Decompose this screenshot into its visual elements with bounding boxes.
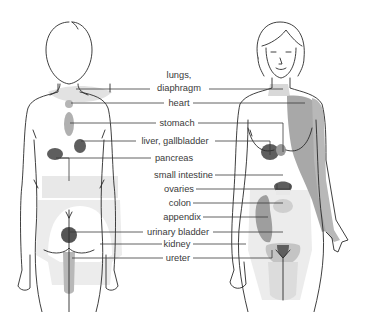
lumbar-zone-back	[42, 176, 118, 198]
front-hair-outline	[257, 22, 304, 76]
label-heart: heart	[168, 98, 190, 108]
heart-zone-back	[65, 100, 73, 108]
front-view-figure	[230, 22, 348, 312]
label-small-intestine: small intestine	[154, 170, 213, 180]
organ-labels: lungs, diaphragm heart stomach liver, ga…	[141, 70, 213, 263]
label-ureter: ureter	[166, 253, 190, 263]
label-stomach: stomach	[159, 118, 194, 128]
label-kidney: kidney	[164, 239, 191, 249]
label-urinary-bladder: urinary bladder	[147, 227, 209, 237]
front-face-features	[271, 52, 291, 70]
colon-zone-light	[273, 199, 293, 213]
label-diaphragm: diaphragm	[157, 83, 201, 93]
ovaries-zone-front	[276, 190, 290, 195]
stomach-zone-front	[276, 144, 286, 156]
stomach-zone-back	[64, 112, 74, 136]
back-view-figure	[18, 22, 122, 312]
label-pancreas: pancreas	[155, 153, 194, 163]
label-liver-gallbladder: liver, gallbladder	[141, 136, 208, 146]
label-ovaries: ovaries	[164, 184, 194, 194]
front-face-outline	[266, 48, 296, 78]
lungs-diaphragm-zone-front	[268, 84, 290, 96]
back-head-outline	[46, 22, 92, 84]
label-colon: colon	[169, 198, 191, 208]
referred-pain-diagram: lungs, diaphragm heart stomach liver, ga…	[0, 0, 387, 312]
label-appendix: appendix	[163, 212, 201, 222]
label-lungs: lungs,	[167, 70, 192, 80]
